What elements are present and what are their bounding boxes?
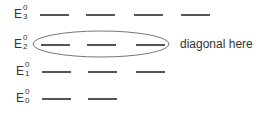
energy-level-diagram: E03 E02 E01 E00 diagonal here: [0, 0, 266, 113]
highlight-ellipse: [0, 0, 266, 113]
annotation-label: diagonal here: [180, 37, 253, 51]
